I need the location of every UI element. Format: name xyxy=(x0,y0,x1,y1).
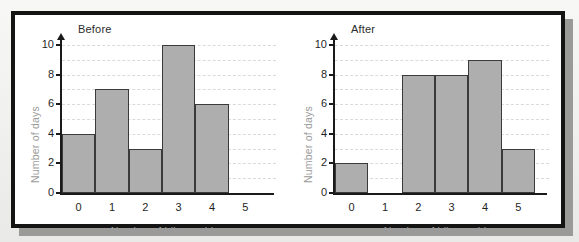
y-axis-tick-label: 0 xyxy=(28,186,54,198)
x-axis-tick-label: 0 xyxy=(335,201,368,213)
x-axis-tick-label: 3 xyxy=(162,201,195,213)
x-axis-tick-label: 5 xyxy=(229,201,262,213)
x-axis-tick-label: 2 xyxy=(402,201,435,213)
y-axis-line-before xyxy=(60,39,62,195)
x-axis-line-after xyxy=(333,193,547,195)
y-axis-arrow-icon-after xyxy=(330,33,338,40)
bar xyxy=(335,163,368,193)
y-axis-tick-label: 6 xyxy=(301,97,327,109)
bar xyxy=(95,89,128,193)
y-axis-tick xyxy=(56,103,61,105)
y-axis-tick xyxy=(56,192,61,194)
y-axis-tick-label: 2 xyxy=(28,156,54,168)
y-axis-label-before: Number of days xyxy=(29,106,41,183)
x-axis-label-after: Number of bikes sold xyxy=(335,225,535,237)
y-axis-arrow-icon-before xyxy=(57,33,65,40)
y-axis-tick xyxy=(56,133,61,135)
bar xyxy=(502,149,535,193)
x-axis-tick-label: 5 xyxy=(502,201,535,213)
chart-panel-after: After Number of days Number of bikes sol… xyxy=(288,15,561,224)
x-axis-label-before: Number of bikes sold xyxy=(62,225,262,237)
x-axis-tick-label: 1 xyxy=(95,201,128,213)
bar xyxy=(62,134,95,193)
y-axis-tick-label: 8 xyxy=(28,68,54,80)
y-axis-tick-label: 4 xyxy=(301,127,327,139)
y-axis-tick xyxy=(329,162,334,164)
bar xyxy=(195,104,228,193)
y-axis-tick-label: 0 xyxy=(301,186,327,198)
y-axis-tick xyxy=(329,74,334,76)
bars-after xyxy=(335,45,535,193)
y-axis-tick xyxy=(329,44,334,46)
y-axis-tick-label: 4 xyxy=(28,127,54,139)
y-axis-label-after: Number of days xyxy=(302,106,314,183)
y-axis-tick xyxy=(56,74,61,76)
x-axis-tick-label: 0 xyxy=(62,201,95,213)
bar xyxy=(129,149,162,193)
bar xyxy=(402,75,435,193)
y-axis-tick xyxy=(329,192,334,194)
y-axis-tick xyxy=(329,133,334,135)
x-axis-tick-label: 2 xyxy=(129,201,162,213)
x-axis-tick-label: 1 xyxy=(368,201,401,213)
figure-frame: Before Number of days Number of bikes so… xyxy=(11,11,565,228)
plot-area-after xyxy=(335,45,535,193)
y-axis-tick xyxy=(56,162,61,164)
x-axis-tick-label: 4 xyxy=(195,201,228,213)
chart-panel-before: Before Number of days Number of bikes so… xyxy=(15,15,288,224)
y-axis-tick xyxy=(329,103,334,105)
y-axis-tick-label: 10 xyxy=(28,38,54,50)
screenshot-root: Before Number of days Number of bikes so… xyxy=(0,0,579,242)
y-axis-tick xyxy=(56,44,61,46)
x-axis-tick-label: 3 xyxy=(435,201,468,213)
plot-area-before xyxy=(62,45,262,193)
figure-inner: Before Number of days Number of bikes so… xyxy=(15,15,561,224)
y-axis-tick-label: 10 xyxy=(301,38,327,50)
bar xyxy=(162,45,195,193)
x-axis-line-before xyxy=(60,193,274,195)
y-axis-tick-label: 2 xyxy=(301,156,327,168)
bar xyxy=(468,60,501,193)
y-axis-tick-label: 8 xyxy=(301,68,327,80)
x-axis-tick-label: 4 xyxy=(468,201,501,213)
y-axis-line-after xyxy=(333,39,335,195)
bar xyxy=(435,75,468,193)
y-axis-tick-label: 6 xyxy=(28,97,54,109)
chart-title-before: Before xyxy=(78,23,112,35)
bars-before xyxy=(62,45,262,193)
chart-title-after: After xyxy=(351,23,375,35)
